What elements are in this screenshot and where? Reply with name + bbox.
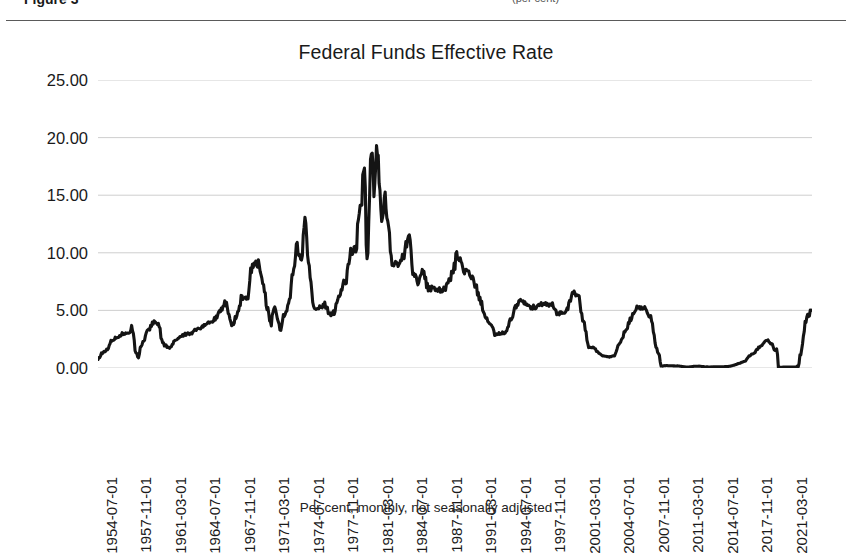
header-text-fragment: Figure 3 (per cent) [0,0,852,14]
x-axis: 1954-07-011957-11-011961-03-011964-07-01… [98,373,812,485]
y-tick-label: 10.00 [0,243,88,262]
x-tick-label: 1974-07-01 [311,477,326,554]
figure-number-fragment: Figure 3 [24,0,78,7]
series-line [98,146,812,368]
y-tick-label: 20.00 [0,128,88,147]
y-tick-label: 25.00 [0,71,88,90]
x-tick-label: 2004-07-01 [621,477,636,554]
y-tick-label: 5.00 [0,301,88,320]
x-tick-label: 1971-03-01 [276,477,291,554]
chart-caption: Per cent, monthly, not seasonally adjust… [0,500,852,515]
x-tick-label: 1991-03-01 [483,477,498,554]
x-tick-label: 2021-03-01 [794,477,809,554]
x-tick-label: 2014-07-01 [725,477,740,554]
x-tick-label: 1961-03-01 [173,477,188,554]
x-tick-label: 1964-07-01 [207,477,222,554]
y-axis: 0.005.0010.0015.0020.0025.00 [0,80,88,368]
figure-unit-fragment: (per cent) [512,0,559,4]
x-tick-label: 1981-03-01 [380,477,395,554]
series-federal-funds-effective-rate [98,80,812,368]
x-tick-label: 1984-07-01 [414,477,429,554]
x-tick-label: 1994-07-01 [518,477,533,554]
x-tick-label: 1954-07-01 [104,477,119,554]
y-tick-label: 0.00 [0,359,88,378]
chart-title: Federal Funds Effective Rate [0,41,852,64]
y-tick-label: 15.00 [0,186,88,205]
plot-area [98,80,812,368]
x-tick-label: 2001-03-01 [587,477,602,554]
header-divider-rule [6,20,846,21]
